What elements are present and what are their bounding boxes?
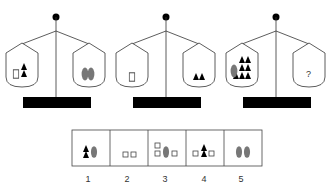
answer-options: 1 2 3 4 5 <box>72 130 262 184</box>
beam-left <box>22 31 56 44</box>
left-pan <box>6 43 38 87</box>
square-icon <box>13 70 18 78</box>
beam-left <box>132 31 166 44</box>
square-icon <box>131 152 136 157</box>
right-pan <box>183 43 215 87</box>
left-pan <box>226 43 258 87</box>
right-pan <box>73 43 105 87</box>
option-label-2: 2 <box>124 174 129 184</box>
oval-icon <box>231 65 238 78</box>
option-label-5: 5 <box>238 174 243 184</box>
scale-3: ? <box>226 14 325 109</box>
balance-puzzle-diagram: ? <box>0 0 333 191</box>
scale-1 <box>6 14 105 109</box>
oval-icon <box>88 68 95 81</box>
beam-right <box>276 31 309 44</box>
scale-base <box>243 97 311 108</box>
option-label-1: 1 <box>85 174 90 184</box>
scale-2 <box>116 14 215 109</box>
option-label-3: 3 <box>162 174 167 184</box>
oval-icon <box>244 146 250 158</box>
square-icon <box>155 151 160 156</box>
square-icon <box>172 151 177 156</box>
left-pan <box>116 43 148 87</box>
right-pan: ? <box>293 43 325 87</box>
question-mark: ? <box>306 69 311 79</box>
oval-icon <box>82 68 89 81</box>
square-icon <box>129 73 134 81</box>
beam-left <box>242 31 276 44</box>
beam-right <box>166 31 199 44</box>
square-icon <box>155 143 160 148</box>
square-icon <box>209 151 214 156</box>
oval-icon <box>91 146 97 158</box>
square-icon <box>123 152 128 157</box>
scale-base <box>23 97 91 108</box>
beam-right <box>56 31 89 44</box>
option-label-4: 4 <box>201 174 206 184</box>
square-icon <box>193 151 198 156</box>
scale-base <box>133 97 201 108</box>
oval-icon <box>236 146 242 158</box>
oval-icon <box>163 146 169 158</box>
